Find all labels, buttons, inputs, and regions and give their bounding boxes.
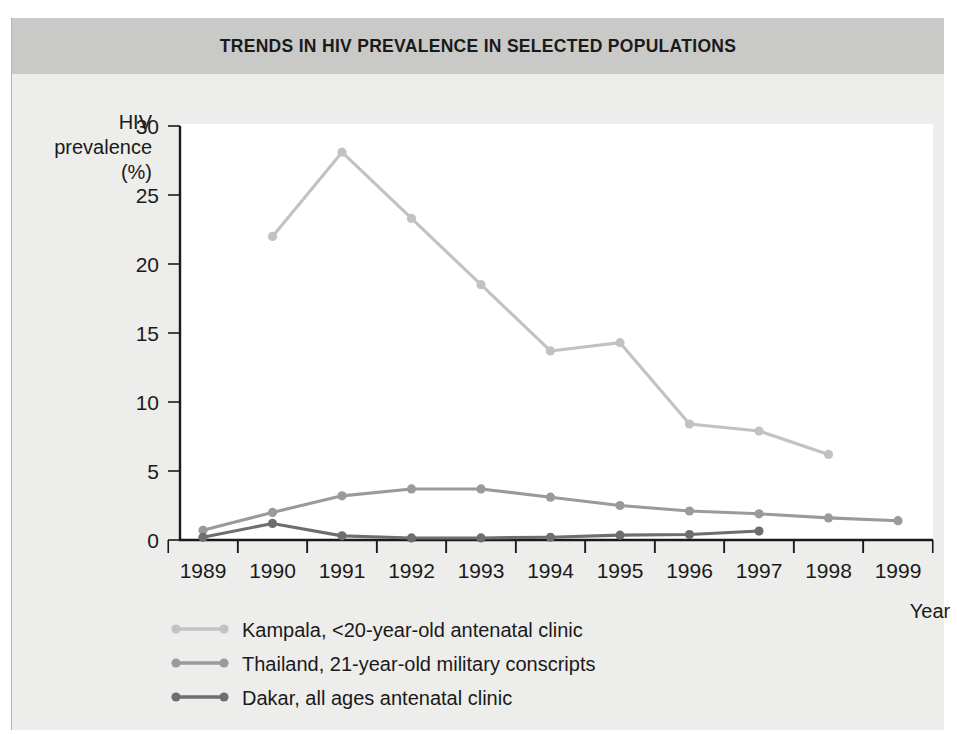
series-data-point	[337, 531, 346, 540]
series-data-point	[685, 419, 694, 428]
legend-swatch-dot	[219, 692, 228, 701]
axis-lines	[180, 126, 933, 540]
axis-group: 051015202530HIVprevalence(%)198919901991…	[54, 111, 950, 622]
y-axis-tick-label: 15	[136, 322, 159, 345]
legend-swatch-dot	[171, 692, 180, 701]
legend-swatch-dot	[219, 624, 228, 633]
series-data-point	[615, 531, 624, 540]
y-axis-caption-line: (%)	[121, 161, 152, 183]
figure-container: TRENDS IN HIV PREVALENCE IN SELECTED POP…	[0, 0, 957, 734]
x-axis-tick-label: 1999	[875, 559, 922, 582]
legend-item: Kampala, <20-year-old antenatal clinic	[171, 619, 582, 641]
legend-label: Thailand, 21-year-old military conscript…	[242, 653, 595, 675]
series-data-point	[337, 491, 346, 500]
legend-item: Dakar, all ages antenatal clinic	[171, 687, 512, 709]
data-series	[198, 484, 902, 535]
series-data-point	[824, 513, 833, 522]
series-data-point	[476, 533, 485, 542]
line-chart: 051015202530HIVprevalence(%)198919901991…	[0, 0, 957, 734]
series-data-point	[546, 346, 555, 355]
y-axis-tick-label: 10	[136, 391, 159, 414]
series-data-point	[407, 484, 416, 493]
x-axis-tick-label: 1993	[458, 559, 505, 582]
legend-swatch-dot	[171, 624, 180, 633]
y-axis-tick-label: 20	[136, 253, 159, 276]
legend-item: Thailand, 21-year-old military conscript…	[171, 653, 595, 675]
series-data-point	[407, 533, 416, 542]
y-axis-caption-line: HIV	[119, 111, 153, 133]
series-data-point	[268, 232, 277, 241]
x-axis-tick-label: 1995	[597, 559, 644, 582]
legend-label: Kampala, <20-year-old antenatal clinic	[242, 619, 583, 641]
legend-label: Dakar, all ages antenatal clinic	[242, 687, 512, 709]
x-axis-tick-label: 1990	[249, 559, 296, 582]
x-axis-tick-label: 1991	[319, 559, 366, 582]
series-data-point	[337, 148, 346, 157]
legend-swatch-dot	[171, 658, 180, 667]
series-data-point	[268, 508, 277, 517]
y-axis-tick-label: 25	[136, 184, 159, 207]
legend-group: Kampala, <20-year-old antenatal clinicTh…	[171, 619, 595, 709]
legend-swatch-dot	[219, 658, 228, 667]
series-line	[273, 152, 829, 454]
x-axis-tick-label: 1994	[527, 559, 574, 582]
series-group	[198, 148, 902, 543]
x-axis-tick-label: 1989	[180, 559, 227, 582]
series-data-point	[476, 484, 485, 493]
y-axis-tick-label: 0	[147, 529, 159, 552]
series-data-point	[268, 519, 277, 528]
x-axis-caption: Year	[910, 600, 951, 622]
series-data-point	[546, 493, 555, 502]
y-axis-caption-line: prevalence	[54, 136, 152, 158]
series-data-point	[407, 214, 416, 223]
x-axis-tick-label: 1996	[666, 559, 713, 582]
series-data-point	[198, 533, 207, 542]
series-data-point	[893, 516, 902, 525]
x-axis-tick-label: 1997	[736, 559, 783, 582]
series-data-point	[615, 338, 624, 347]
series-data-point	[476, 280, 485, 289]
data-series	[268, 148, 833, 459]
series-data-point	[546, 533, 555, 542]
series-data-point	[754, 426, 763, 435]
series-data-point	[754, 526, 763, 535]
series-data-point	[824, 450, 833, 459]
series-data-point	[685, 506, 694, 515]
series-data-point	[615, 501, 624, 510]
x-axis-tick-label: 1998	[805, 559, 852, 582]
series-data-point	[754, 509, 763, 518]
y-axis-tick-label: 5	[147, 460, 159, 483]
x-axis-tick-label: 1992	[388, 559, 435, 582]
series-data-point	[685, 530, 694, 539]
